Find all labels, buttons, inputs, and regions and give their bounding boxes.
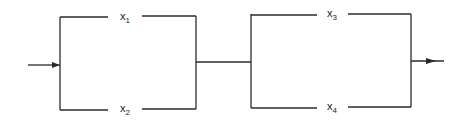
output-arrow-icon [411,58,444,64]
parallel-block-1: x1 x2 [60,10,196,117]
component-label-x3: x3 [327,7,338,22]
parallel-block-2: x3 x4 [251,7,411,115]
component-label-x4: x4 [327,100,338,115]
component-label-x2: x2 [120,102,131,117]
input-arrow-icon [28,62,60,68]
series-parallel-diagram: x1 x2 x3 x4 [0,0,465,120]
component-label-x1: x1 [120,10,131,25]
